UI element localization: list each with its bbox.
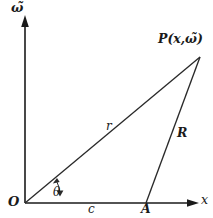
horizontal-axis-arrowhead [187, 199, 199, 207]
segment-r-upper-label: R [177, 127, 187, 140]
point-a-label: A [141, 203, 151, 216]
angle-theta-label: θ [53, 186, 60, 198]
vertical-axis-arrowhead [21, 15, 29, 27]
origin-label: O [8, 195, 19, 208]
figure-canvas: ω̃ P(x,ω̃) r R θ O c A x [0, 0, 213, 218]
segment-c-label: c [88, 203, 95, 215]
segment-r-lower-label: r [106, 120, 112, 132]
horizontal-axis-label: x [201, 194, 208, 207]
horizontal-axis [25, 199, 199, 207]
segment-r-lower [25, 57, 200, 203]
vertical-axis-label: ω̃ [11, 1, 23, 14]
point-p-label: P(x,ω̃) [158, 33, 203, 46]
vertical-axis [21, 15, 29, 203]
